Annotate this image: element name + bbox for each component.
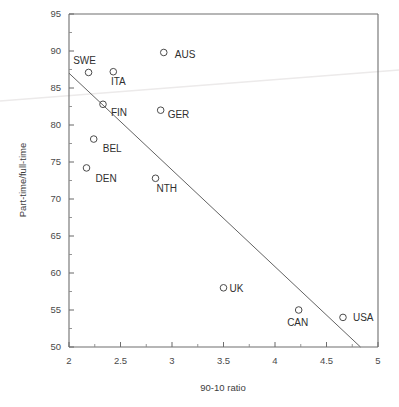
data-point-aus: AUS xyxy=(160,49,195,60)
y-axis-title: Part-time/full-time xyxy=(17,143,28,217)
data-point-label-nth: NTH xyxy=(157,183,178,194)
data-point-marker-can xyxy=(295,307,302,314)
data-point-ger: GER xyxy=(157,107,189,120)
data-point-marker-ita xyxy=(110,68,117,75)
data-point-marker-aus xyxy=(160,49,167,56)
y-tick-label: 60 xyxy=(50,267,61,278)
data-point-marker-ger xyxy=(157,107,164,114)
data-point-label-can: CAN xyxy=(287,317,308,328)
data-point-label-swe: SWE xyxy=(73,55,96,66)
data-point-marker-uk xyxy=(220,285,227,292)
y-tick-label: 85 xyxy=(50,82,61,93)
data-point-label-usa: USA xyxy=(353,312,374,323)
x-axis-title: 90-10 ratio xyxy=(200,382,245,393)
data-point-marker-usa xyxy=(340,314,347,321)
data-point-label-bel: BEL xyxy=(103,143,122,154)
y-tick-label: 65 xyxy=(50,230,61,241)
y-tick-label: 80 xyxy=(50,119,61,130)
data-point-marker-den xyxy=(83,165,90,172)
x-tick-label: 5 xyxy=(375,355,380,366)
y-tick-label: 55 xyxy=(50,304,61,315)
y-tick-label: 95 xyxy=(50,8,61,19)
data-point-marker-nth xyxy=(152,175,159,182)
data-point-label-uk: UK xyxy=(230,283,244,294)
data-point-ita: ITA xyxy=(110,68,126,86)
data-point-den: DEN xyxy=(83,165,116,184)
y-axis-ticks: 50556065707580859095 xyxy=(50,8,74,352)
x-tick-label: 2.5 xyxy=(114,355,127,366)
data-point-label-aus: AUS xyxy=(175,49,196,60)
data-point-label-den: DEN xyxy=(96,173,117,184)
data-point-label-fin: FIN xyxy=(111,107,127,118)
data-point-swe: SWE xyxy=(73,55,96,75)
y-tick-label: 90 xyxy=(50,45,61,56)
y-tick-label: 50 xyxy=(50,341,61,352)
data-point-marker-bel xyxy=(90,136,97,143)
data-point-series: SWEITAFINAUSGERBELDENNTHUKCANUSA xyxy=(73,49,374,328)
chart-figure: 50556065707580859095 22.533.544.55 SWEIT… xyxy=(0,0,399,407)
x-tick-label: 3 xyxy=(169,355,174,366)
data-point-label-ger: GER xyxy=(168,109,190,120)
data-point-usa: USA xyxy=(340,312,374,323)
data-point-bel: BEL xyxy=(90,136,122,154)
y-tick-label: 75 xyxy=(50,156,61,167)
x-tick-label: 4.5 xyxy=(320,355,333,366)
data-point-label-ita: ITA xyxy=(111,76,126,87)
data-point-marker-fin xyxy=(100,101,107,108)
x-tick-label: 2 xyxy=(66,355,71,366)
x-tick-label: 4 xyxy=(272,355,277,366)
data-point-uk: UK xyxy=(220,283,244,294)
data-point-can: CAN xyxy=(287,307,308,328)
x-axis-ticks: 22.533.544.55 xyxy=(66,342,380,366)
y-tick-label: 70 xyxy=(50,193,61,204)
x-tick-label: 3.5 xyxy=(217,355,230,366)
data-point-nth: NTH xyxy=(152,175,177,194)
data-point-fin: FIN xyxy=(100,101,127,118)
scatter-plot-canvas: 50556065707580859095 22.533.544.55 SWEIT… xyxy=(0,0,399,407)
data-point-marker-swe xyxy=(85,69,92,76)
